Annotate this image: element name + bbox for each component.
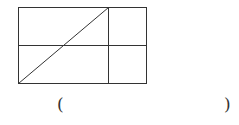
geometry-figure bbox=[0, 0, 239, 125]
open-paren: ( bbox=[57, 94, 64, 114]
close-paren: ) bbox=[224, 94, 231, 114]
